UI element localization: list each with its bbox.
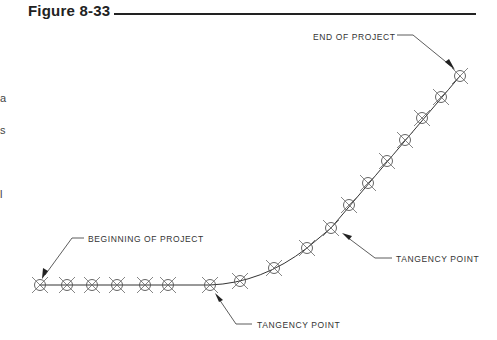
alignment-drawing [0, 0, 497, 340]
leader-end-of-project [397, 35, 455, 70]
leader-tangency-upper [342, 233, 392, 258]
leader-tangency-lower [215, 293, 252, 324]
alignment-line [40, 76, 460, 285]
station-markers [32, 68, 468, 293]
leader-beginning-of-project [42, 238, 84, 279]
